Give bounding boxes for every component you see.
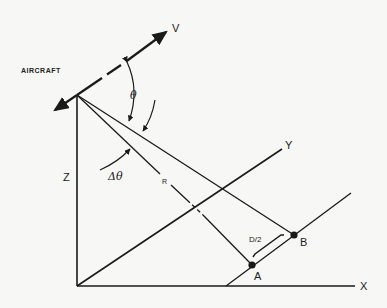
point-a-marker bbox=[248, 261, 255, 268]
range-label: R bbox=[162, 178, 167, 185]
aircraft-label: AIRCRAFT bbox=[21, 67, 61, 74]
y-axis-label: Y bbox=[285, 139, 293, 151]
point-b-label: B bbox=[300, 236, 307, 248]
x-axis-label: X bbox=[360, 280, 368, 292]
half-distance-label: D/2 bbox=[249, 235, 262, 244]
theta-label: θ bbox=[130, 89, 137, 102]
point-b-marker bbox=[290, 231, 297, 238]
delta-theta-arrow-lower bbox=[100, 149, 130, 170]
velocity-label: V bbox=[172, 22, 180, 34]
velocity-vector bbox=[55, 32, 166, 110]
z-axis-label: Z bbox=[63, 171, 70, 183]
delta-theta-arrow-upper bbox=[143, 100, 155, 131]
ground-track-line bbox=[226, 193, 351, 286]
point-a-label: A bbox=[254, 270, 262, 282]
delta-theta-label: Δθ bbox=[107, 170, 123, 183]
geometry-diagram: AIRCRAFT V θ Δθ R Z Y X D/2 A B bbox=[0, 0, 387, 308]
